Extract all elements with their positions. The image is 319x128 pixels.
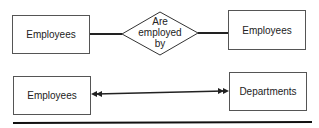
relationship-arrow-line — [96, 91, 224, 94]
entity-employees-top-right: Employees — [228, 10, 306, 50]
bottom-rule — [13, 122, 312, 123]
entity-label: Employees — [242, 25, 291, 36]
entity-employees-bottom-left: Employees — [13, 76, 91, 115]
entity-label: Employees — [27, 90, 76, 101]
entity-label: Employees — [26, 29, 75, 40]
relationship-label: Are employed by — [130, 16, 190, 49]
entity-employees-top-left: Employees — [12, 15, 90, 54]
entity-departments: Departments — [229, 72, 307, 111]
entity-label: Departments — [239, 86, 296, 97]
